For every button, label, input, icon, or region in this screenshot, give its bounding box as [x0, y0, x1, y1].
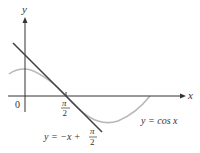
tangent-line: [13, 43, 102, 132]
origin-label: 0: [15, 99, 20, 110]
cosine-label: y = cos x: [140, 115, 178, 126]
x-axis-label: x: [187, 89, 193, 101]
tangent-label-numerator: π: [90, 126, 95, 136]
tangent-label-prefix: y = −x +: [43, 131, 81, 142]
pi-half-denominator: 2: [63, 108, 68, 118]
y-axis-label: y: [21, 3, 27, 15]
pi-half-numerator: π: [62, 98, 67, 108]
x-axis-arrow-icon: [180, 94, 186, 99]
y-axis-arrow-icon: [23, 17, 28, 23]
tangent-label-denominator: 2: [90, 137, 95, 147]
diagram-canvas: y x 0 π 2 y = cos x y = −x + π 2: [0, 0, 200, 153]
